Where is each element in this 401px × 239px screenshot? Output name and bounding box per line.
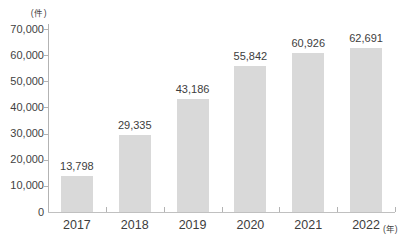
bar-value-label: 62,691: [336, 32, 396, 45]
x-tick-mark: [222, 207, 223, 212]
y-tick-mark: [44, 186, 48, 187]
bar-value-label: 55,842: [220, 50, 280, 63]
bar-2019: [177, 99, 209, 212]
x-axis-unit-label: (年): [383, 222, 398, 234]
y-tick-mark: [44, 55, 48, 56]
bar-value-label: 43,186: [163, 83, 223, 96]
y-tick-label: 10,000: [0, 179, 44, 192]
y-tick-label: 0: [0, 206, 44, 219]
x-axis-label-2021: 2021: [278, 218, 338, 233]
x-axis: [48, 212, 395, 213]
y-tick-label: 50,000: [0, 75, 44, 88]
x-tick-mark: [106, 207, 107, 212]
x-axis-label-2018: 2018: [105, 218, 165, 233]
x-axis-label-2019: 2019: [163, 218, 223, 233]
x-tick-mark: [279, 207, 280, 212]
bar-2018: [119, 135, 151, 212]
y-tick-label: 70,000: [0, 23, 44, 36]
x-tick-mark: [337, 207, 338, 212]
bar-2021: [292, 53, 324, 212]
y-tick-mark: [44, 29, 48, 30]
y-tick-label: 60,000: [0, 49, 44, 62]
bar-value-label: 29,335: [105, 119, 165, 132]
x-tick-mark: [395, 207, 396, 212]
y-axis: [48, 24, 49, 212]
bar-2020: [234, 66, 266, 212]
bar-chart: (件) 010,00020,00030,00040,00050,00060,00…: [0, 0, 401, 239]
bar-2022: [350, 48, 382, 212]
x-tick-mark: [164, 207, 165, 212]
y-axis-unit-label: (件): [0, 6, 47, 18]
y-tick-mark: [44, 81, 48, 82]
x-axis-label-2017: 2017: [47, 218, 107, 233]
y-tick-label: 30,000: [0, 127, 44, 140]
bar-value-label: 60,926: [278, 37, 338, 50]
bar-2017: [61, 176, 93, 212]
x-axis-label-2020: 2020: [220, 218, 280, 233]
y-tick-mark: [44, 107, 48, 108]
y-tick-mark: [44, 134, 48, 135]
bar-value-label: 13,798: [47, 160, 107, 173]
y-tick-label: 20,000: [0, 153, 44, 166]
y-tick-label: 40,000: [0, 101, 44, 114]
